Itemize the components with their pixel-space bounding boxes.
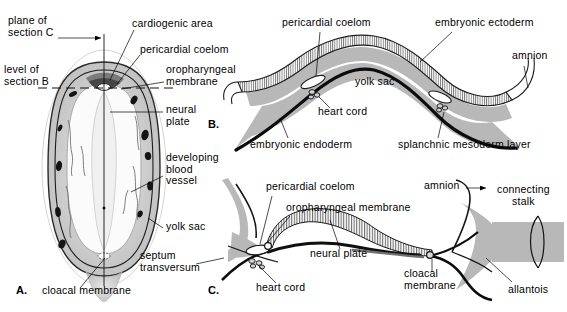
label-oropharyngeal-membrane-c: oropharyngeal membrane <box>286 202 411 214</box>
label-heart-cord-c: heart cord <box>256 282 305 294</box>
figure-canvas: plane of section C level of section B ca… <box>0 0 567 312</box>
panel-label-c: C. <box>208 284 219 296</box>
label-neural-plate-a: neural plate <box>166 104 196 127</box>
label-neural-plate-c: neural plate <box>310 248 367 260</box>
label-septum-transversum: septum transversum <box>140 250 200 273</box>
panel-label-b: B. <box>208 118 219 130</box>
label-amnion-b: amnion <box>512 50 548 62</box>
panel-label-a: A. <box>16 284 27 296</box>
label-cloacal-membrane-a: cloacal membrane <box>42 285 131 297</box>
label-heart-cord-b: heart cord <box>318 106 367 118</box>
label-cardiogenic-area: cardiogenic area <box>132 18 213 30</box>
label-pericardial-coelom-c: pericardial coelom <box>266 181 355 193</box>
label-yolk-sac-a: yolk sac <box>166 221 206 233</box>
label-yolk-sac-b: yolk sac <box>355 76 395 88</box>
label-connecting-stalk: connecting stalk <box>497 184 550 207</box>
oropharyngeal-membrane-node <box>265 243 272 250</box>
label-pericardial-coelom-a: pericardial coelom <box>140 44 229 56</box>
panel-b-artwork <box>224 32 535 150</box>
heart-cord-c <box>249 259 265 269</box>
diagram-artwork <box>0 0 567 312</box>
label-embryonic-endoderm: embryonic endoderm <box>250 139 352 151</box>
label-splanchnic-mesoderm-layer: splanchnic mesoderm layer <box>398 139 531 151</box>
label-cloacal-membrane-c: cloacal membrane <box>404 268 456 291</box>
label-level-of-section-b: level of section B <box>4 64 49 87</box>
label-amnion-c: amnion <box>424 180 460 192</box>
label-plane-of-section-c: plane of section C <box>8 15 54 38</box>
label-pericardial-coelom-b: pericardial coelom <box>282 17 371 29</box>
cloacal-membrane-node <box>427 252 434 259</box>
label-embryonic-ectoderm: embryonic ectoderm <box>435 17 534 29</box>
label-oropharyngeal-membrane-a: oropharyngeal membrane <box>166 64 236 87</box>
label-developing-blood-vessel: developing blood vessel <box>166 152 219 187</box>
label-allantois: allantois <box>508 284 548 296</box>
